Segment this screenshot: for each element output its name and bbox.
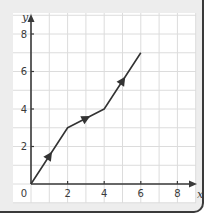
x-tick-label: 8 — [174, 188, 180, 199]
line-chart: 24682468 x y 0 — [0, 0, 209, 218]
x-tick-label: 4 — [101, 188, 107, 199]
y-tick-label: 4 — [21, 104, 27, 115]
y-tick-label: 6 — [21, 66, 27, 77]
origin-label: 0 — [21, 188, 27, 199]
x-tick-label: 6 — [138, 188, 144, 199]
x-tick-label: 2 — [64, 188, 70, 199]
y-tick-label: 2 — [21, 141, 27, 152]
y-tick-label: 8 — [21, 29, 27, 40]
y-axis-label: y — [21, 11, 29, 24]
x-axis-label: x — [197, 188, 204, 201]
